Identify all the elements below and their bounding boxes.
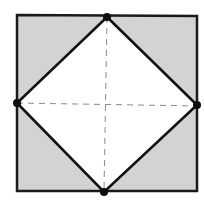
square-rhombus-diagram — [0, 0, 204, 205]
vertex-dot-right — [193, 101, 201, 109]
vertex-dot-left — [13, 99, 21, 107]
vertex-dot-top — [103, 13, 111, 21]
diagram-canvas — [0, 0, 204, 205]
vertex-dot-bottom — [100, 188, 108, 196]
